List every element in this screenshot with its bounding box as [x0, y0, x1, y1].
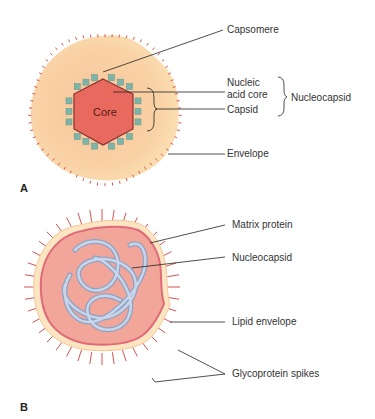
- label-core: Core: [93, 107, 117, 118]
- label-matrix-protein: Matrix protein: [232, 219, 293, 230]
- label-glycoprotein-spikes: Glycoprotein spikes: [232, 368, 319, 379]
- label-nucleic-line1: Nucleic: [227, 77, 260, 88]
- label-nucleocapsid-b: Nucleocapsid: [232, 252, 292, 263]
- nucleocapsid-brace: [278, 77, 287, 116]
- panel-letter-b: B: [20, 401, 28, 413]
- spike-leader-2: [152, 374, 225, 382]
- label-capsomere: Capsomere: [227, 24, 279, 35]
- label-lipid-envelope: Lipid envelope: [232, 316, 297, 327]
- label-nucleic-line2: acid core: [227, 89, 268, 100]
- enveloped-virus-b: [24, 209, 225, 382]
- spike-leader-1: [178, 350, 225, 374]
- virus-diagram: path d placeholder: [0, 0, 375, 419]
- matrix-leader: [150, 225, 225, 243]
- label-envelope: Envelope: [227, 148, 269, 159]
- panel-letter-a: A: [20, 182, 28, 194]
- label-capsid: Capsid: [227, 104, 258, 115]
- label-nucleocapsid-a: Nucleocapsid: [291, 92, 351, 103]
